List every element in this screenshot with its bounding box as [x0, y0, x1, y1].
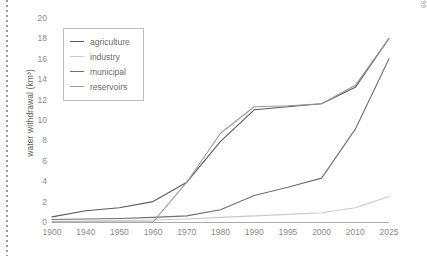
- y-tick-label-6: 6: [42, 156, 47, 166]
- x-tick-label-1960: 1960: [144, 227, 163, 237]
- legend-item-reservoirs: reservoirs: [70, 79, 137, 94]
- legend-item-industry: industry: [70, 49, 137, 64]
- y-tick-label-12: 12: [38, 95, 47, 105]
- legend-item-municipal: municipal: [70, 64, 137, 79]
- y-tick-label-16: 16: [38, 54, 47, 64]
- x-tick-label-1900: 1900: [43, 227, 62, 237]
- y-tick-label-14: 14: [38, 74, 47, 84]
- legend-label-reservoirs: reservoirs: [90, 82, 127, 92]
- legend-swatch-industry: [70, 56, 84, 57]
- source-credit: Source: Shiklomanov 1999: [420, 0, 427, 8]
- x-tick-label-2010: 2010: [346, 227, 365, 237]
- legend-label-municipal: municipal: [90, 67, 126, 77]
- x-tick-label-2000: 2000: [312, 227, 331, 237]
- dotted-edge-rule: [6, 0, 8, 256]
- y-tick-label-0: 0: [42, 217, 47, 227]
- legend-label-industry: industry: [90, 52, 120, 62]
- y-tick-label-18: 18: [38, 33, 47, 43]
- y-axis-title: water withdrawal (km³): [25, 38, 35, 188]
- y-tick-label-10: 10: [38, 115, 47, 125]
- x-tick-label-1995: 1995: [278, 227, 297, 237]
- y-tick-label-8: 8: [42, 135, 47, 145]
- x-tick-label-1950: 1950: [110, 227, 129, 237]
- legend-item-agriculture: agriculture: [70, 34, 137, 49]
- x-tick-label-1980: 1980: [211, 227, 230, 237]
- legend-swatch-reservoirs: [70, 86, 84, 87]
- legend-label-agriculture: agriculture: [90, 37, 130, 47]
- y-tick-label-2: 2: [42, 197, 47, 207]
- y-tick-label-4: 4: [42, 176, 47, 186]
- legend-swatch-municipal: [70, 71, 84, 72]
- legend-swatch-agriculture: [70, 41, 84, 42]
- chart-legend: agricultureindustrymunicipalreservoirs: [63, 28, 144, 101]
- x-tick-label-2025: 2025: [380, 227, 399, 237]
- x-tick-label-1970: 1970: [177, 227, 196, 237]
- x-axis-line: [52, 222, 389, 223]
- x-tick-label-1940: 1940: [76, 227, 95, 237]
- x-tick-label-1990: 1990: [245, 227, 264, 237]
- y-tick-label-20: 20: [38, 13, 47, 23]
